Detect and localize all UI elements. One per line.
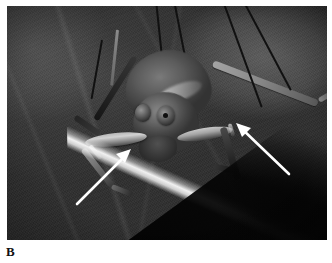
panel-label: B [6, 244, 15, 259]
annotation-arrow-left [55, 142, 145, 216]
annotation-arrow-right [225, 116, 311, 188]
figure-panel: B [0, 0, 332, 263]
photograph [7, 6, 327, 240]
